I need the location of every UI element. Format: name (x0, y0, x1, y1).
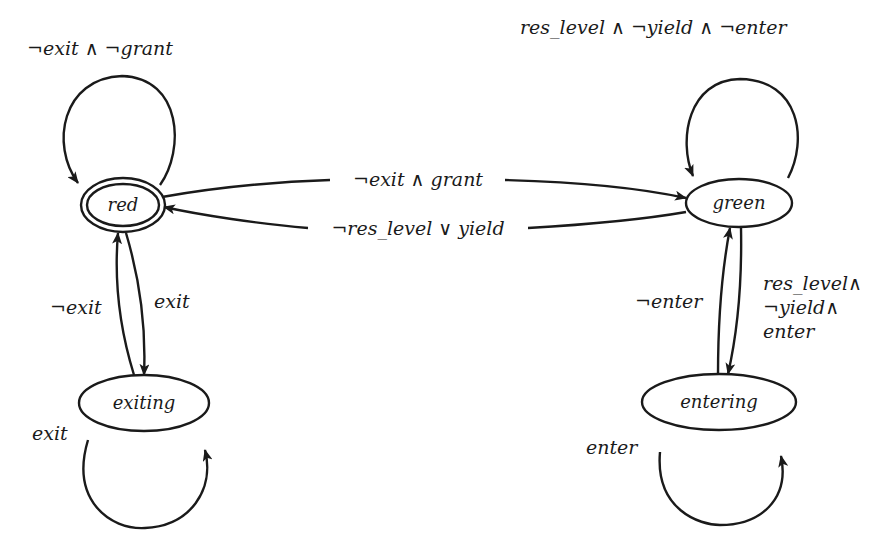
label-red-self-loop: ¬exit ∧ ¬grant (27, 37, 173, 59)
state-green: green (686, 179, 792, 227)
state-entering-label: entering (680, 391, 758, 412)
state-exiting-label: exiting (113, 392, 176, 413)
edge-entering-to-green (718, 228, 730, 375)
edge-entering-self-loop (660, 452, 783, 525)
label-green-to-entering-line3: enter (763, 320, 816, 342)
state-red: red (81, 178, 165, 232)
state-diagram: red green exiting entering ¬exit ∧ ¬gran… (0, 0, 894, 550)
edge-green-to-entering (728, 228, 741, 374)
label-red-to-exiting: exit (154, 290, 190, 312)
state-entering: entering (642, 374, 796, 430)
label-exiting-to-red: ¬exit (50, 296, 102, 318)
label-red-to-green: ¬exit ∧ grant (353, 168, 483, 190)
label-entering-self-loop: enter (586, 436, 639, 458)
edge-red-self-loop (64, 76, 175, 185)
state-red-label: red (108, 194, 139, 215)
label-exiting-self-loop: exit (32, 422, 68, 444)
label-green-to-red: ¬res_level ∨ yield (331, 217, 504, 240)
label-green-to-entering-line2: ¬yield∧ (763, 296, 839, 318)
label-green-to-entering-line1: res_level∧ (763, 272, 862, 295)
label-entering-to-green: ¬enter (635, 290, 704, 312)
state-green-label: green (712, 192, 765, 213)
edge-green-self-loop (687, 79, 798, 178)
edge-exiting-self-loop (84, 440, 208, 528)
state-exiting: exiting (79, 375, 209, 431)
label-green-self-loop: res_level ∧ ¬yield ∧ ¬enter (520, 16, 788, 39)
